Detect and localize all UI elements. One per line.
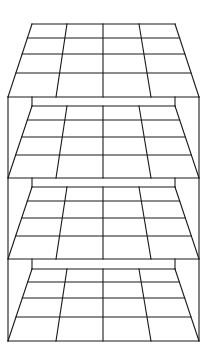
- shelf-3-column-line: [8, 269, 32, 341]
- shelf-1-column-line: [139, 106, 151, 178]
- top-face-column-line: [139, 24, 151, 97]
- top-face-column-line: [56, 24, 67, 97]
- shelf-2-column-line: [8, 187, 32, 259]
- shelf-3-column-line: [175, 269, 199, 341]
- shelf-2-column-line: [175, 187, 199, 259]
- shelf-3-column-line: [139, 269, 151, 341]
- shelf-1-column-line: [56, 106, 67, 178]
- diagram-lines: [8, 24, 199, 341]
- shelf-3-column-line: [56, 269, 67, 341]
- top-face-column-line: [8, 24, 32, 97]
- shelf-2-column-line: [56, 187, 67, 259]
- shelf-1-column-line: [8, 106, 32, 178]
- shelf-2-column-line: [139, 187, 151, 259]
- shelf-1-column-line: [175, 106, 199, 178]
- stacked-grid-box-diagram: [0, 0, 218, 359]
- top-face-column-line: [175, 24, 199, 97]
